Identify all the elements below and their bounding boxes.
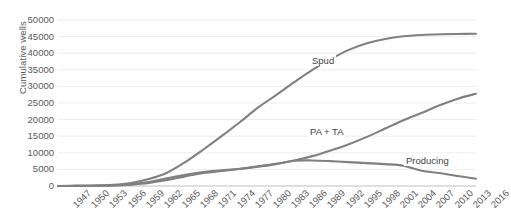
y-tick-label: 0	[12, 181, 54, 191]
series-line-pa-ta	[58, 94, 476, 186]
y-tick-label: 5000	[12, 164, 54, 174]
x-tick-label: 1956	[126, 188, 148, 210]
y-tick-label: 40000	[12, 48, 54, 58]
x-tick-label: 1977	[253, 188, 275, 210]
x-tick-label: 2010	[453, 188, 475, 210]
x-axis-tick-labels: 1947195019531956195919621965196819711974…	[58, 186, 476, 224]
x-tick-label: 1953	[108, 188, 130, 210]
y-tick-label: 35000	[12, 65, 54, 75]
x-tick-label: 2007	[435, 188, 457, 210]
x-tick-label: 1995	[362, 188, 384, 210]
x-tick-label: 2016	[489, 188, 511, 210]
x-tick-label: 1971	[217, 188, 239, 210]
series-label-spud: Spud	[310, 55, 336, 66]
series-label-producing: Producing	[404, 155, 451, 166]
y-tick-label: 45000	[12, 32, 54, 42]
y-tick-label: 10000	[12, 148, 54, 158]
y-tick-label: 20000	[12, 115, 54, 125]
y-tick-label: 25000	[12, 98, 54, 108]
x-tick-label: 1989	[326, 188, 348, 210]
x-tick-label: 1959	[144, 188, 166, 210]
y-tick-label: 15000	[12, 131, 54, 141]
y-tick-label: 30000	[12, 81, 54, 91]
y-axis-tick-labels: 0500010000150002000025000300003500040000…	[12, 14, 54, 186]
x-tick-label: 2013	[471, 188, 493, 210]
x-tick-label: 1992	[344, 188, 366, 210]
x-tick-label: 1974	[235, 188, 257, 210]
y-tick-label: 50000	[12, 15, 54, 25]
series-label-pa-ta: PA + TA	[308, 126, 346, 137]
